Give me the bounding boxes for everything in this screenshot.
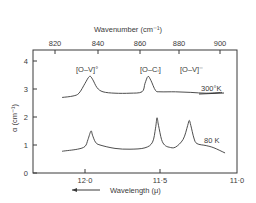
y-tick-label: 4: [24, 57, 28, 66]
absorption-spectrum-chart: Wavenumber (cm⁻¹) 820840860880900 01234 …: [0, 0, 256, 203]
y-tick-label: 1: [24, 141, 28, 150]
x-tick-label: 11·0: [230, 176, 244, 185]
top-axis-label: Wavenumber (cm⁻¹): [94, 25, 162, 34]
bottom-axis-label: Wavelength (μ): [110, 186, 161, 195]
arrow-left-icon: [72, 188, 77, 192]
top-axis-ticks: 820840860880900: [49, 39, 227, 54]
x-axis-ticks: 12·011·511·0: [77, 169, 244, 185]
plot-frame: [33, 50, 237, 173]
y-axis-ticks: 01234: [24, 57, 37, 178]
y-tick-label: 0: [24, 169, 28, 178]
annotation-oci: [O–Cᵢ]: [140, 65, 161, 74]
top-tick-label: 900: [214, 39, 227, 48]
label-300k: 300°K: [201, 84, 222, 93]
top-tick-label: 840: [92, 39, 105, 48]
top-tick-label: 860: [134, 39, 147, 48]
annotation-ov0: [O–V]°: [76, 65, 98, 74]
y-axis-label: α (cm⁻¹): [10, 104, 19, 132]
top-tick-label: 880: [173, 39, 186, 48]
y-tick-label: 2: [24, 113, 28, 122]
chart-svg: Wavenumber (cm⁻¹) 820840860880900 01234 …: [0, 0, 256, 203]
x-tick-label: 12·0: [77, 176, 92, 185]
curve-300k: [63, 76, 222, 97]
label-80k: 80 K: [204, 136, 219, 145]
y-tick-label: 3: [24, 85, 28, 94]
curve-80k: [63, 118, 225, 153]
annotation-ov-minus: [O–V]⁻: [180, 65, 203, 74]
x-tick-label: 11·5: [153, 176, 167, 185]
top-tick-label: 820: [49, 39, 62, 48]
